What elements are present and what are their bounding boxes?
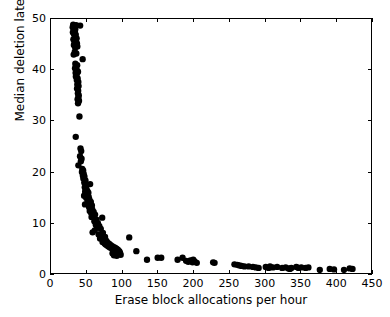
x-tick-mark <box>193 270 194 274</box>
data-point <box>75 100 81 106</box>
data-point <box>241 263 247 269</box>
x-tick-mark <box>336 270 337 274</box>
data-point <box>144 257 150 263</box>
y-tick-mark-right <box>368 120 372 121</box>
scatter-plot-figure: 050100150200250300350400450 01020304050 … <box>0 0 390 317</box>
y-tick-mark-right <box>368 69 372 70</box>
data-point <box>74 43 80 49</box>
data-point <box>76 113 82 119</box>
x-tick-mark <box>300 270 301 274</box>
x-tick-mark-top <box>372 18 373 22</box>
x-tick-mark <box>229 270 230 274</box>
x-tick-mark-top <box>86 18 87 22</box>
data-point <box>89 229 95 235</box>
data-point <box>126 234 132 240</box>
data-point <box>305 264 311 270</box>
data-point <box>317 267 323 273</box>
x-tick-label: 300 <box>254 278 275 289</box>
x-tick-mark <box>372 270 373 274</box>
data-point <box>114 253 120 259</box>
scatter-points-layer <box>51 19 371 273</box>
y-tick-label: 20 <box>22 166 46 177</box>
data-point <box>341 267 347 273</box>
x-tick-label: 400 <box>326 278 347 289</box>
data-point <box>133 248 139 254</box>
x-tick-label: 0 <box>47 278 54 289</box>
data-point <box>349 266 355 272</box>
y-tick-mark <box>50 120 54 121</box>
x-tick-mark-top <box>336 18 337 22</box>
data-point <box>73 134 79 140</box>
x-tick-mark-top <box>229 18 230 22</box>
y-tick-mark-right <box>368 172 372 173</box>
data-point <box>265 265 271 271</box>
x-tick-label: 150 <box>147 278 168 289</box>
y-tick-mark <box>50 172 54 173</box>
x-tick-label: 50 <box>79 278 93 289</box>
plot-area <box>50 18 372 274</box>
y-tick-mark <box>50 274 54 275</box>
y-tick-label: 10 <box>22 217 46 228</box>
y-tick-mark <box>50 69 54 70</box>
y-tick-mark-right <box>368 274 372 275</box>
y-tick-label: 0 <box>22 269 46 280</box>
y-tick-mark-right <box>368 223 372 224</box>
y-tick-mark <box>50 18 54 19</box>
data-point <box>287 266 293 272</box>
x-tick-mark-top <box>300 18 301 22</box>
x-tick-mark <box>122 270 123 274</box>
x-tick-mark <box>265 270 266 274</box>
x-tick-mark-top <box>157 18 158 22</box>
data-point <box>73 50 79 56</box>
data-point <box>158 255 164 261</box>
x-tick-mark-top <box>193 18 194 22</box>
x-tick-label: 200 <box>183 278 204 289</box>
y-axis-label: Median deletion latency (hours) <box>14 0 26 146</box>
x-tick-label: 250 <box>218 278 239 289</box>
x-tick-mark-top <box>265 18 266 22</box>
data-point <box>253 264 259 270</box>
x-tick-mark <box>157 270 158 274</box>
y-tick-mark-right <box>368 18 372 19</box>
x-tick-label: 450 <box>362 278 383 289</box>
data-point <box>211 260 217 266</box>
data-point <box>77 22 83 28</box>
data-point <box>79 56 85 62</box>
data-point <box>231 261 237 267</box>
x-tick-label: 100 <box>111 278 132 289</box>
x-tick-mark <box>86 270 87 274</box>
data-point <box>190 257 196 263</box>
data-point <box>99 214 105 220</box>
x-tick-label: 350 <box>290 278 311 289</box>
y-tick-mark <box>50 223 54 224</box>
x-tick-mark-top <box>122 18 123 22</box>
x-axis-label: Erase block allocations per hour <box>50 294 372 306</box>
